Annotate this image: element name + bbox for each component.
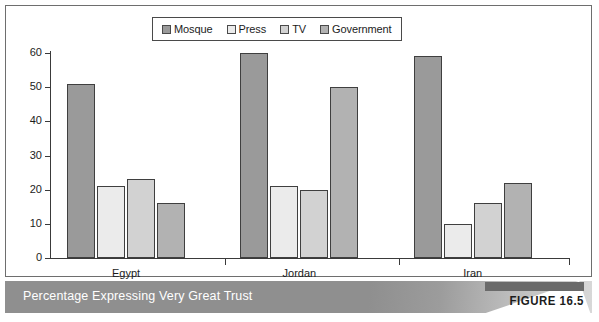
bar: [97, 186, 125, 258]
y-axis-tick-label: 40: [30, 114, 42, 126]
legend-swatch-icon: [280, 25, 289, 34]
caption-band: Percentage Expressing Very Great Trust F…: [5, 281, 592, 313]
y-axis-tick-label: 30: [30, 149, 42, 161]
x-axis-end-tick: [569, 258, 570, 265]
y-axis-tick: 50: [45, 87, 50, 88]
bar: [240, 53, 268, 258]
bar: [157, 203, 185, 258]
bar: [330, 87, 358, 258]
y-axis-tick-label: 20: [30, 183, 42, 195]
y-axis-tick: 40: [45, 121, 50, 122]
legend-entry: TV: [280, 23, 306, 35]
bar: [504, 183, 532, 258]
legend-label: Mosque: [174, 23, 213, 35]
legend-label: TV: [292, 23, 306, 35]
legend-label: Press: [239, 23, 267, 35]
y-axis-tick: 20: [45, 190, 50, 191]
chart-legend: MosquePressTVGovernment: [152, 17, 402, 41]
x-axis-line: [50, 258, 570, 259]
y-axis-tick-label: 50: [30, 80, 42, 92]
figure-caption: Percentage Expressing Very Great Trust: [23, 289, 252, 303]
y-axis-tick-label: 0: [36, 251, 42, 263]
x-axis-group-label: Jordan: [283, 267, 317, 279]
x-axis-group-separator: [399, 258, 400, 265]
figure-tag-bar: [485, 282, 584, 291]
bar: [127, 179, 155, 258]
x-axis-group-separator: [225, 258, 226, 265]
legend-swatch-icon: [162, 25, 171, 34]
legend-label: Government: [332, 23, 392, 35]
bar: [67, 84, 95, 258]
legend-entry: Mosque: [162, 23, 213, 35]
bar: [474, 203, 502, 258]
bar: [444, 224, 472, 258]
legend-entry: Press: [227, 23, 267, 35]
legend-swatch-icon: [320, 25, 329, 34]
y-axis-line: [50, 51, 51, 259]
y-axis-tick-label: 10: [30, 217, 42, 229]
x-axis-group-label: Iran: [463, 267, 482, 279]
bar: [414, 56, 442, 258]
y-axis-tick-label: 60: [30, 46, 42, 58]
y-axis-tick: 30: [45, 156, 50, 157]
chart-panel: MosquePressTVGovernment 0102030405060Egy…: [5, 5, 592, 277]
figure-tag-block: FIGURE 16.5: [479, 281, 584, 308]
plot-area: 0102030405060EgyptJordanIran: [50, 51, 570, 259]
y-axis-tick: 60: [45, 53, 50, 54]
legend-swatch-icon: [227, 25, 236, 34]
bar: [270, 186, 298, 258]
bar: [300, 190, 328, 258]
y-axis-tick: 0: [45, 258, 50, 259]
y-axis-tick: 10: [45, 224, 50, 225]
x-axis-group-label: Egypt: [112, 267, 140, 279]
legend-entry: Government: [320, 23, 392, 35]
figure-number-label: FIGURE 16.5: [492, 293, 584, 308]
figure-container: MosquePressTVGovernment 0102030405060Egy…: [0, 0, 599, 322]
